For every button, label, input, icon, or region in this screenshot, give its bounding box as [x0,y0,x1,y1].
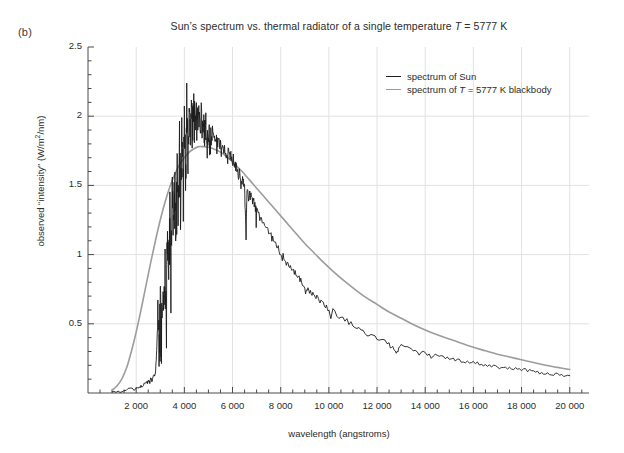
legend-item-sun: spectrum of Sun [386,70,551,83]
legend-swatch-blackbody [386,89,401,90]
legend-label-bb-after: = 5777 K blackbody [465,84,551,95]
y-tick-label: 2.5 [42,40,82,51]
figure-panel-b: (b) Sun’s spectrum vs. thermal radiator … [0,0,624,453]
y-tick-label: 1 [42,248,82,259]
y-tick-label: 2 [42,109,82,120]
y-tick-label: 1.5 [42,178,82,189]
x-tick-label: 20 000 [540,400,600,411]
legend-label-blackbody: spectrum of T = 5777 K blackbody [407,83,551,96]
legend-label-bb-before: spectrum of [407,84,459,95]
legend-label-sun: spectrum of Sun [407,70,476,83]
legend-item-blackbody: spectrum of T = 5777 K blackbody [386,83,551,96]
y-tick-label: 0.5 [42,317,82,328]
legend-swatch-sun [386,76,401,77]
plot-area [0,0,624,453]
legend-label-sun-before: spectrum of Sun [407,71,476,82]
legend: spectrum of Sun spectrum of T = 5777 K b… [386,70,551,96]
